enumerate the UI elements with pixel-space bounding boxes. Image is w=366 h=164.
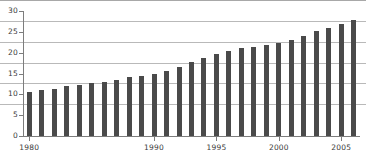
bar bbox=[264, 45, 269, 136]
bar bbox=[102, 82, 107, 136]
x-tick-mark-1990 bbox=[154, 137, 155, 141]
x-tick-mark-1980 bbox=[29, 137, 30, 141]
bar bbox=[251, 47, 256, 136]
bar-chart: 051015202530 19801990199520002005 bbox=[0, 0, 366, 164]
bar bbox=[114, 80, 119, 136]
y-axis-label-25: 25 bbox=[0, 27, 18, 36]
y-axis-label-20: 20 bbox=[0, 48, 18, 57]
x-tick-mark-2000 bbox=[279, 137, 280, 141]
y-axis-label-10: 10 bbox=[0, 89, 18, 98]
bar bbox=[77, 85, 82, 136]
bar bbox=[314, 31, 319, 136]
bar bbox=[226, 51, 231, 136]
bar bbox=[214, 54, 219, 137]
x-axis-label-2005: 2005 bbox=[331, 143, 351, 152]
bar bbox=[52, 89, 57, 137]
bar bbox=[39, 90, 44, 136]
bar bbox=[127, 77, 132, 136]
x-axis-label-1990: 1990 bbox=[144, 143, 164, 152]
x-axis-label-1980: 1980 bbox=[19, 143, 39, 152]
bar bbox=[351, 20, 356, 136]
x-tick-mark-1995 bbox=[216, 137, 217, 141]
bar bbox=[152, 74, 157, 136]
gridline-30 bbox=[0, 0, 366, 1]
x-axis-label-2000: 2000 bbox=[269, 143, 289, 152]
bar bbox=[189, 62, 194, 136]
y-axis-label-0: 0 bbox=[0, 131, 18, 140]
bar bbox=[326, 28, 331, 136]
bar bbox=[139, 76, 144, 136]
bar bbox=[301, 36, 306, 136]
bar bbox=[339, 24, 344, 137]
bar-series bbox=[23, 11, 360, 136]
bar bbox=[64, 86, 69, 136]
x-axis-line bbox=[23, 136, 360, 137]
bar bbox=[27, 92, 32, 136]
bar bbox=[276, 43, 281, 136]
bar bbox=[289, 40, 294, 136]
y-axis-label-15: 15 bbox=[0, 69, 18, 78]
bar bbox=[201, 58, 206, 136]
bar bbox=[239, 48, 244, 136]
bar bbox=[177, 67, 182, 136]
bar bbox=[89, 83, 94, 136]
y-tick-mark-0 bbox=[19, 136, 23, 137]
y-axis-label-5: 5 bbox=[0, 110, 18, 119]
x-axis-label-1995: 1995 bbox=[207, 143, 227, 152]
x-tick-mark-2005 bbox=[341, 137, 342, 141]
y-axis-label-30: 30 bbox=[0, 6, 18, 15]
bar bbox=[164, 71, 169, 136]
